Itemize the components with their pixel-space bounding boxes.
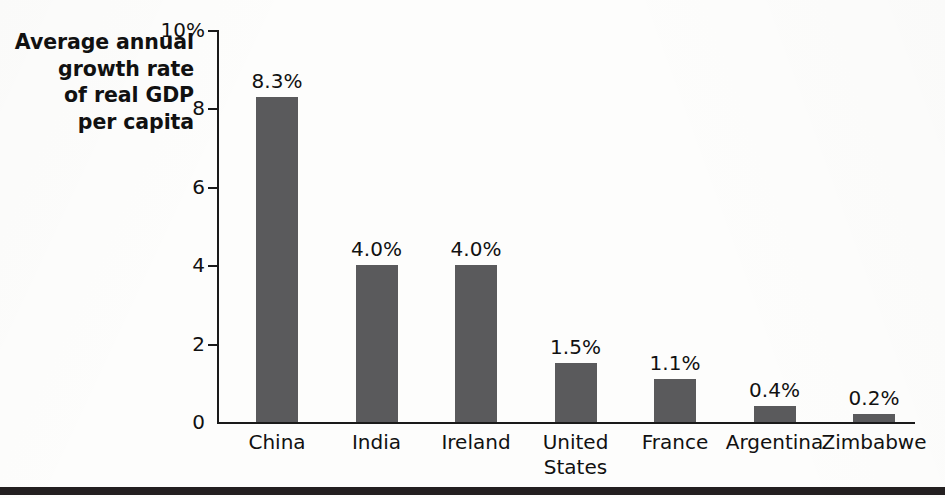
category-label-line: Zimbabwe: [821, 430, 926, 455]
category-label-ireland: Ireland: [441, 430, 510, 455]
category-label-line: States: [543, 455, 609, 480]
bar-united-states: 1.5%: [555, 363, 597, 422]
y-tick-mark: [208, 108, 218, 110]
category-label-united-states: UnitedStates: [543, 430, 609, 480]
category-label-line: Argentina: [726, 430, 824, 455]
bar-ireland: 4.0%: [455, 265, 497, 422]
y-tick-label: 4: [192, 253, 205, 277]
bar-india: 4.0%: [356, 265, 398, 422]
bar-value-label: 1.5%: [550, 335, 601, 359]
bar-value-label: 0.4%: [749, 378, 800, 402]
bar-value-label: 8.3%: [252, 69, 303, 93]
bar-value-label: 1.1%: [650, 351, 701, 375]
y-axis-title-line-2: growth rate: [8, 56, 194, 83]
y-tick-mark: [208, 265, 218, 267]
bar-china: 8.3%: [256, 97, 298, 422]
plot-area: 10%86420 8.3%4.0%4.0%1.5%1.1%0.4%0.2%: [217, 30, 915, 424]
y-tick-mark: [208, 187, 218, 189]
bar-value-label: 0.2%: [849, 386, 900, 410]
category-label-line: United: [543, 430, 609, 455]
y-tick-label: 2: [192, 332, 205, 356]
bar-value-label: 4.0%: [451, 237, 502, 261]
y-tick-label: 10%: [161, 18, 205, 42]
category-label-line: India: [352, 430, 401, 455]
category-label-line: China: [248, 430, 305, 455]
bar-argentina: 0.4%: [754, 406, 796, 422]
chart-page: Average annual growth rate of real GDP p…: [0, 0, 945, 498]
y-tick-label: 8: [192, 96, 205, 120]
category-label-china: China: [248, 430, 305, 455]
y-axis-title-line-3: of real GDP: [8, 82, 194, 109]
category-label-india: India: [352, 430, 401, 455]
bar-value-label: 4.0%: [351, 237, 402, 261]
category-label-line: Ireland: [441, 430, 510, 455]
x-axis-line: [217, 422, 915, 424]
bar-zimbabwe: 0.2%: [853, 414, 895, 422]
y-axis-title-line-4: per capita: [8, 109, 194, 136]
y-tick-mark: [208, 344, 218, 346]
y-axis-title: Average annual growth rate of real GDP p…: [8, 29, 194, 135]
bottom-rule: [0, 487, 945, 495]
y-axis-line: [217, 30, 219, 424]
y-tick-label: 0: [192, 410, 205, 434]
category-label-line: France: [642, 430, 709, 455]
category-label-zimbabwe: Zimbabwe: [821, 430, 926, 455]
y-tick-mark: [208, 30, 218, 32]
bar-france: 1.1%: [654, 379, 696, 422]
category-label-france: France: [642, 430, 709, 455]
y-tick-label: 6: [192, 175, 205, 199]
category-label-argentina: Argentina: [726, 430, 824, 455]
